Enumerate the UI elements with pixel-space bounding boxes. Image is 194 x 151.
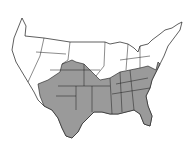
us-map-svg (0, 0, 194, 151)
